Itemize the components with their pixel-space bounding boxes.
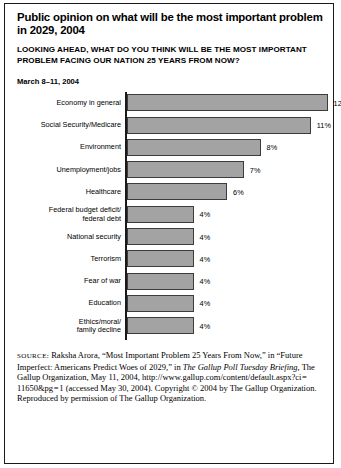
chart-category-label: Education [17, 299, 121, 308]
chart-category-label: Environment [17, 143, 121, 152]
chart-category-label: Healthcare [17, 188, 121, 197]
chart-category-label: Ethics/moral/family decline [17, 317, 121, 334]
chart-plot-area: Economy in general12%Social Security/Med… [17, 92, 333, 340]
chart-bar-row: Economy in general12% [17, 93, 333, 112]
source-label: SOURCE: [17, 352, 49, 360]
chart-category-label: National security [17, 232, 121, 241]
chart-bar [127, 183, 228, 200]
chart-bar-value-label: 11% [317, 121, 331, 130]
figure-header: Public opinion on what will be the most … [5, 4, 333, 68]
chart-bar [127, 139, 261, 156]
chart-bar [127, 250, 194, 267]
chart-bar-value-label: 8% [267, 143, 278, 152]
chart-bar-row: Terrorism4% [17, 249, 333, 268]
chart-bar-row: Education4% [17, 294, 333, 313]
chart-bar-row: Fear of war4% [17, 272, 333, 291]
chart-category-label: Social Security/Medicare [17, 121, 121, 130]
chart-bar-value-label: 12% [334, 98, 341, 107]
chart-category-label: Terrorism [17, 255, 121, 264]
chart-bar-row: Unemployment/jobs7% [17, 160, 333, 179]
figure-frame: Public opinion on what will be the most … [4, 3, 334, 464]
chart-bar [127, 206, 194, 223]
chart-bar-row: National security4% [17, 227, 333, 246]
chart-bar-value-label: 4% [200, 299, 211, 308]
chart-bar-value-label: 6% [233, 187, 244, 196]
chart-bar-value-label: 4% [200, 277, 211, 286]
chart-bar-value-label: 7% [250, 165, 261, 174]
chart-category-label: Unemployment/jobs [17, 165, 121, 174]
chart-bar-row: Federal budget deficit/federal debt4% [17, 205, 333, 224]
chart-bar-value-label: 4% [200, 254, 211, 263]
chart-bar [127, 317, 194, 334]
page-title: Public opinion on what will be the most … [17, 11, 323, 37]
source-citation: SOURCE: Raksha Arora, “Most Important Pr… [17, 350, 321, 404]
chart-bar [127, 273, 194, 290]
chart-bar-value-label: 4% [200, 210, 211, 219]
chart-bar [127, 94, 328, 111]
chart-category-label: Federal budget deficit/federal debt [17, 206, 121, 223]
chart-bar-value-label: 4% [200, 232, 211, 241]
chart-category-label: Economy in general [17, 98, 121, 107]
bar-chart: March 8–11, 2004 Economy in general12%So… [5, 77, 333, 340]
chart-bar-row: Healthcare6% [17, 182, 333, 201]
chart-bar [127, 117, 311, 134]
chart-bar-row: Social Security/Medicare11% [17, 116, 333, 135]
chart-bar-value-label: 4% [200, 321, 211, 330]
chart-bar [127, 161, 244, 178]
chart-date-annotation: March 8–11, 2004 [17, 77, 333, 86]
chart-category-label: Fear of war [17, 277, 121, 286]
chart-bar-row: Environment8% [17, 138, 333, 157]
chart-bar [127, 228, 194, 245]
chart-bar-row: Ethics/moral/family decline4% [17, 316, 333, 335]
figure-subtitle: LOOKING AHEAD, WHAT DO YOU THINK WILL BE… [17, 45, 323, 66]
source-publication-title: The Gallup Poll Tuesday Briefing, [183, 362, 300, 372]
chart-bar [127, 295, 194, 312]
